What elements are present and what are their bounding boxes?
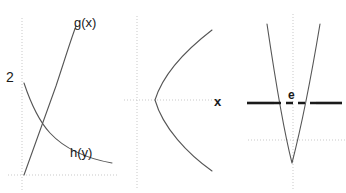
label-h-of-y: h(y) xyxy=(70,146,92,159)
label-level-e: e xyxy=(288,89,295,101)
panel-middle xyxy=(124,16,222,190)
label-y-intercept-2: 2 xyxy=(6,70,14,84)
panel-left xyxy=(8,18,118,190)
curve-h-of-y xyxy=(24,83,112,163)
math-figure: 2 g(x) h(y) x e xyxy=(0,0,346,193)
curve-g-of-x xyxy=(24,26,76,175)
label-g-of-x: g(x) xyxy=(74,16,96,29)
panel-right xyxy=(247,14,345,190)
label-x-axis: x xyxy=(214,95,221,108)
